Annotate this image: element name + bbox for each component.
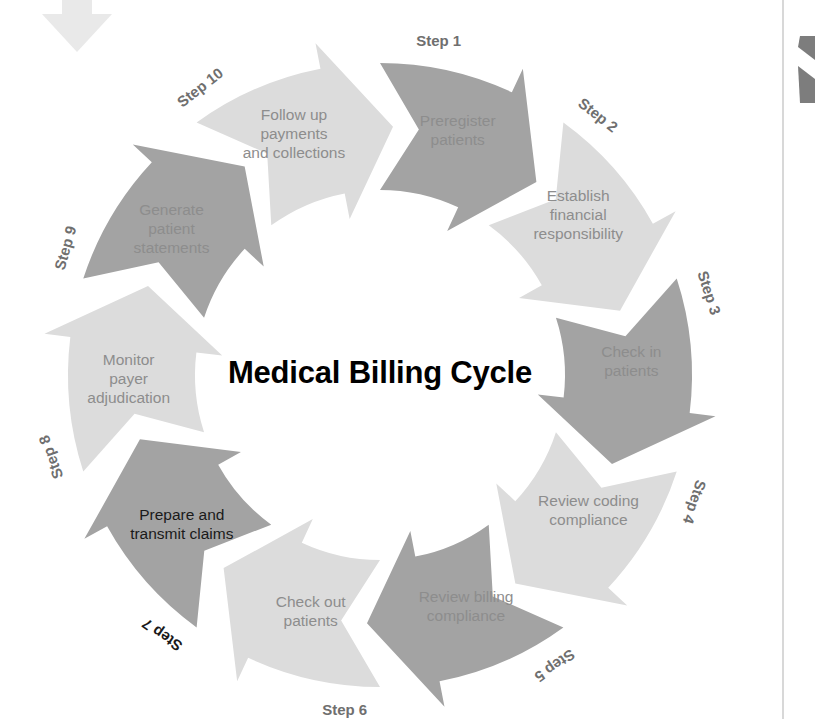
step-tag-5: Step 5 (532, 646, 579, 686)
step-tag-6: Step 6 (322, 701, 367, 718)
step-tag-3: Step 3 (694, 269, 724, 317)
step-tag-2: Step 2 (575, 94, 621, 135)
diagram-canvas: Medical Billing Cycle Preregisterpatient… (0, 0, 815, 719)
step-tag-4: Step 4 (680, 478, 710, 527)
step-tag-10: Step 10 (174, 64, 227, 110)
down-arrow-icon (42, 0, 112, 52)
step-tag-9: Step 9 (51, 224, 80, 272)
medical-billing-cycle-diagram: Medical Billing Cycle Preregisterpatient… (0, 0, 815, 719)
double-chevron-icon (798, 36, 815, 103)
page-title: Medical Billing Cycle (228, 355, 532, 390)
step-tag-8: Step 8 (35, 433, 66, 481)
step-tag-1: Step 1 (416, 32, 461, 49)
step-tag-7: Step 7 (139, 615, 186, 655)
